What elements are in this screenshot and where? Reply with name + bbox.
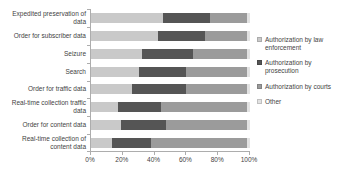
bar-segment-series-4 <box>247 67 250 77</box>
y-axis-tick <box>87 116 90 117</box>
y-axis-tick <box>87 27 90 28</box>
bar-row <box>91 102 250 112</box>
x-tick-label: 0% <box>78 156 102 163</box>
x-tick-label: 60% <box>173 156 197 163</box>
category-label: Order for content data <box>2 121 86 129</box>
bar-segment-series-3 <box>186 67 246 77</box>
bar-segment-series-2 <box>118 102 161 112</box>
category-label: Order for traffic data <box>2 85 86 93</box>
bar-segment-series-4 <box>247 102 250 112</box>
legend-swatch-icon <box>257 84 262 89</box>
y-axis-tick <box>87 45 90 46</box>
bar-row <box>91 31 250 41</box>
legend-swatch-icon <box>257 99 262 104</box>
bar-segment-series-1 <box>91 67 139 77</box>
bar-segment-series-3 <box>166 120 247 130</box>
x-axis-tick <box>217 152 218 155</box>
bar-segment-series-1 <box>91 120 121 130</box>
bar-segment-series-4 <box>247 13 250 23</box>
bar-segment-series-2 <box>112 138 152 148</box>
x-tick-label: 20% <box>110 156 134 163</box>
bar-row <box>91 13 250 23</box>
bar-segment-series-3 <box>161 102 247 112</box>
legend-item: Authorization by courts <box>257 83 339 91</box>
legend-label: Other <box>265 98 281 106</box>
legend-label: Authorization by courts <box>265 83 331 91</box>
y-axis-tick <box>87 134 90 135</box>
bar-row <box>91 67 250 77</box>
legend-item: Authorization by law enforcement <box>257 36 339 51</box>
bar-segment-series-1 <box>91 102 118 112</box>
bar-segment-series-2 <box>139 67 187 77</box>
bar-segment-series-4 <box>247 49 250 59</box>
x-axis-tick <box>90 152 91 155</box>
legend-item: Other <box>257 98 339 106</box>
category-label: Search <box>2 68 86 76</box>
category-label: Order for subscriber data <box>2 32 86 40</box>
bar-row <box>91 49 250 59</box>
bar-segment-series-3 <box>186 84 246 94</box>
category-label: Real-time collection traffic data <box>2 99 86 115</box>
bar-segment-series-1 <box>91 84 132 94</box>
x-axis-tick <box>122 152 123 155</box>
x-tick-label: 100% <box>237 156 261 163</box>
category-label: Expedited preservation of data <box>2 10 86 26</box>
x-axis-tick <box>154 152 155 155</box>
bar-segment-series-2 <box>142 49 193 59</box>
bar-segment-series-2 <box>158 31 206 41</box>
bar-segment-series-2 <box>121 120 166 130</box>
y-axis-tick <box>87 98 90 99</box>
bar-row <box>91 84 250 94</box>
x-axis-tick <box>185 152 186 155</box>
legend: Authorization by law enforcementAuthoriz… <box>257 36 339 106</box>
y-axis-tick <box>87 81 90 82</box>
x-axis-tick <box>249 152 250 155</box>
bar-segment-series-4 <box>247 120 250 130</box>
legend-swatch-icon <box>257 37 262 42</box>
bar-segment-series-3 <box>210 13 247 23</box>
bar-segment-series-1 <box>91 49 142 59</box>
bar-row <box>91 138 250 148</box>
bar-segment-series-3 <box>193 49 247 59</box>
bar-segment-series-3 <box>205 31 246 41</box>
y-axis-tick <box>87 9 90 10</box>
category-label: Seizure <box>2 50 86 58</box>
x-tick-label: 40% <box>142 156 166 163</box>
category-label: Real-time collection of content data <box>2 135 86 151</box>
bar-segment-series-4 <box>247 84 250 94</box>
y-axis-tick <box>87 63 90 64</box>
bar-segment-series-1 <box>91 13 163 23</box>
bar-segment-series-4 <box>247 138 250 148</box>
legend-label: Authorization by prosecution <box>265 59 339 74</box>
x-tick-label: 80% <box>205 156 229 163</box>
bar-segment-series-2 <box>132 84 186 94</box>
bar-segment-series-2 <box>163 13 211 23</box>
stacked-bar-chart: Authorization by law enforcementAuthoriz… <box>0 0 341 181</box>
plot-area <box>90 9 250 152</box>
legend-swatch-icon <box>257 60 262 65</box>
legend-item: Authorization by prosecution <box>257 59 339 74</box>
bar-segment-series-1 <box>91 138 112 148</box>
bar-segment-series-4 <box>247 31 250 41</box>
legend-label: Authorization by law enforcement <box>265 36 339 51</box>
bar-segment-series-1 <box>91 31 158 41</box>
bar-row <box>91 120 250 130</box>
bar-segment-series-3 <box>151 138 246 148</box>
